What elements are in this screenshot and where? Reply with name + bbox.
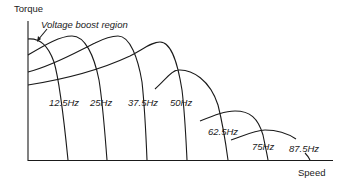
x-axis-label: Speed [298, 167, 325, 178]
curve-87-5hz-tail [305, 153, 310, 160]
label-87-5hz: 87.5Hz [289, 143, 319, 154]
label-25hz: 25Hz [90, 97, 112, 108]
y-axis-label: Torque [14, 3, 43, 14]
label-37-5hz: 37.5Hz [128, 97, 158, 108]
label-50hz: 50Hz [170, 97, 192, 108]
label-62-5hz: 62.5Hz [208, 126, 238, 137]
voltage-boost-annotation: Voltage boost region [41, 19, 128, 30]
label-75hz: 75Hz [252, 141, 274, 152]
label-12-5hz: 12.5Hz [49, 97, 79, 108]
